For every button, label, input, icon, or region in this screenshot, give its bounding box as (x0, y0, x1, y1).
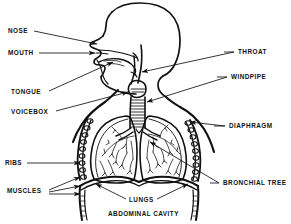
label-mouth: MOUTH (8, 49, 34, 56)
label-nose: NOSE (8, 27, 28, 34)
label-throat: THROAT (238, 48, 267, 55)
label-abdominal-cavity: ABDOMINAL CAVITY (108, 210, 179, 217)
label-windpipe: WINDPIPE (231, 73, 266, 80)
respiratory-system-diagram-page: NOSE MOUTH TONGUE VOICEBOX RIBS MUSCLES … (0, 0, 291, 224)
label-voicebox: VOICEBOX (11, 108, 49, 115)
label-diaphragm: DIAPHRAGM (229, 122, 272, 129)
label-bronchial-tree: BRONCHIAL TREE (223, 179, 287, 186)
respiratory-diagram-figure: NOSE MOUTH TONGUE VOICEBOX RIBS MUSCLES … (0, 0, 291, 224)
label-muscles: MUSCLES (7, 187, 42, 194)
label-tongue: TONGUE (11, 88, 41, 95)
label-lungs: LUNGS (129, 196, 154, 203)
label-ribs: RIBS (5, 159, 22, 166)
